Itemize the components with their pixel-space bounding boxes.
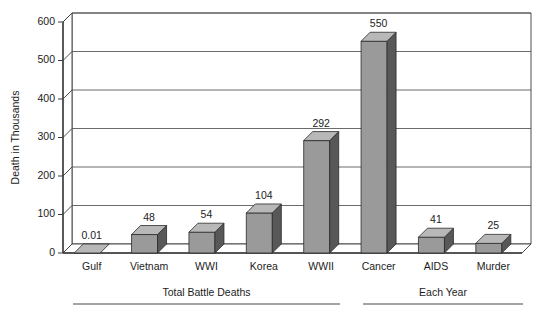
category-label-gulf: Gulf [82,260,101,272]
group-label-0: Total Battle Deaths [162,286,250,298]
bar-value-label: 104 [255,189,273,201]
bar-value-label: 0.01 [81,229,102,241]
category-label-aids: AIDS [424,260,449,272]
bar-front-face [189,232,215,253]
y-tick-label: 300 [37,130,55,142]
bar-front-face [418,237,444,253]
bar-value-label: 550 [370,17,388,29]
category-label-cancer: Cancer [362,260,396,272]
bar-front-face [246,213,272,253]
bar-value-label: 292 [312,117,330,129]
bar-side-face [387,32,396,253]
y-tick-label: 0 [49,246,55,258]
bar-chart-3d: 0100200300400500600Death in Thousands0.0… [0,0,551,313]
chart-container: 0100200300400500600Death in Thousands0.0… [0,0,551,313]
y-tick-label: 600 [37,15,55,27]
bar-aids[interactable] [418,228,453,253]
bar-cancer[interactable] [361,32,396,253]
category-label-wwii: WWII [308,260,334,272]
y-tick-label: 500 [37,53,55,65]
bar-side-face [330,132,339,253]
bar-value-label: 48 [143,211,155,223]
y-axis-title: Death in Thousands [9,91,21,185]
bar-value-label: 54 [201,208,213,220]
bar-front-face [132,235,158,253]
bar-value-label: 25 [487,219,499,231]
bar-korea[interactable] [246,204,281,253]
bar-vietnam[interactable] [132,226,167,253]
bar-front-face [476,243,502,253]
y-tick-label: 200 [37,169,55,181]
bar-wwii[interactable] [304,132,339,253]
bar-value-label: 41 [430,213,442,225]
category-label-murder: Murder [477,260,511,272]
bar-wwi[interactable] [189,223,224,253]
category-label-wwi: WWI [195,260,218,272]
category-label-vietnam: Vietnam [130,260,169,272]
y-tick-label: 400 [37,92,55,104]
category-label-korea: Korea [250,260,278,272]
bar-front-face [304,141,330,253]
group-label-1: Each Year [419,286,467,298]
bar-front-face [361,41,387,253]
y-tick-label: 100 [37,207,55,219]
